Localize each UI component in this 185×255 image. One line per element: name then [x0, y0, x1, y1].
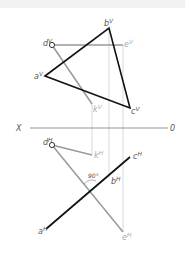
- label-b-front: bV: [104, 17, 114, 28]
- triangle-abc-front: [45, 28, 130, 108]
- label-e-top: eH: [122, 231, 132, 242]
- label-a-front: aV: [34, 70, 44, 81]
- point-d-top: [49, 142, 54, 147]
- label-k-front: kV: [93, 103, 103, 114]
- label-k-top: kH: [94, 149, 104, 160]
- line-de-top: [52, 145, 123, 232]
- projection-diagram: X 0 aV bV cV dV eV kV dH kH cH bH aH eH …: [0, 0, 185, 255]
- line-dk-front: [52, 45, 92, 104]
- label-b-top: bH: [111, 175, 121, 186]
- axis-label-x: X: [15, 124, 22, 133]
- axis-label-0: 0: [170, 124, 175, 133]
- angle-label: 90°: [88, 172, 99, 179]
- label-e-front: eV: [124, 38, 134, 49]
- label-c-top: cH: [133, 150, 142, 161]
- right-angle-arc: [84, 180, 96, 184]
- label-a-top: aH: [38, 225, 48, 236]
- line-ac-top: [46, 157, 130, 229]
- projection-lines: [92, 30, 123, 232]
- label-c-front: cV: [131, 105, 140, 116]
